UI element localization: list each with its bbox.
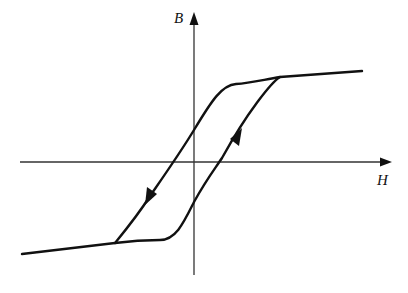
- b-axis-arrow-icon: [190, 12, 199, 25]
- ascending-branch-curve: [22, 77, 280, 254]
- h-axis-label: H: [377, 172, 388, 189]
- arrow-up-right-icon: [230, 128, 242, 146]
- descending-branch-curve: [115, 71, 362, 243]
- b-axis-label: B: [174, 10, 183, 27]
- hysteresis-diagram: [0, 0, 408, 293]
- h-axis-arrow-icon: [380, 158, 392, 167]
